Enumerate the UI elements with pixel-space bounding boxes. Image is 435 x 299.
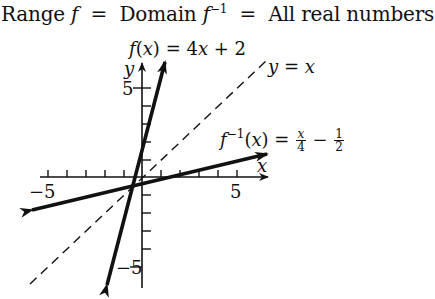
finv-sup: −1 [227,127,245,141]
y-tick-label-neg5: −5 [116,259,143,277]
identity-label: y = x [268,58,315,76]
x-axis-label: x [257,157,267,175]
finv-minus: − [313,129,328,150]
y-axis-label: y [124,60,134,78]
x-tick-label-neg5: −5 [29,183,56,201]
f-inverse-equation-label: f−1(x) = x4 − 12 [220,128,345,153]
f-arg: (x) [136,38,160,59]
f-equation-label: f(x) = 4x + 2 [129,40,246,58]
finv-arg: (x) [244,129,268,150]
inverse-function-figure: Range f = Domain f−1 = All real numbers [0,0,435,299]
finv-name: f [220,129,227,150]
y-tick-label-5: 5 [122,80,133,98]
x-axis [40,170,268,177]
finv-eq: = [274,129,289,150]
identity-x: x [305,56,315,77]
f-eq-sign: = [166,38,181,59]
identity-eq: = [284,56,299,77]
identity-line [30,61,266,284]
f-rhs: 4x + 2 [186,38,246,59]
identity-y: y [268,56,278,77]
f-name: f [129,38,136,59]
x-over-4-fraction: x4 [296,128,306,153]
x-tick-label-5: 5 [230,183,241,201]
f-line [107,62,165,285]
one-half-fraction: 12 [334,128,344,153]
